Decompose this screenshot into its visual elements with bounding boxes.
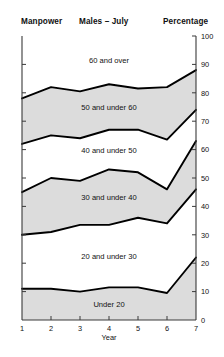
area-bands (22, 36, 196, 320)
right-tick-label: 90 (201, 60, 209, 69)
right-tick-label: 0 (201, 316, 205, 325)
right-tick-label: 80 (201, 89, 209, 98)
x-tick-label: 2 (49, 324, 53, 333)
band-label: 30 and under 40 (81, 193, 136, 202)
right-tick-label: 50 (201, 174, 209, 183)
band-label: 40 and under 50 (81, 146, 136, 155)
x-axis-title: Year (102, 333, 117, 342)
x-tick-label: 6 (165, 324, 169, 333)
x-tick-label: 5 (136, 324, 140, 333)
right-tick-label: 60 (201, 145, 209, 154)
x-tick-label: 1 (20, 324, 24, 333)
right-tick-label: 100 (201, 32, 213, 41)
stacked-area-plot: 0102030405060708090100 1234567 Under 202… (0, 0, 224, 357)
x-tick-label: 3 (78, 324, 82, 333)
right-tick-label: 30 (201, 231, 209, 240)
band-label: Under 20 (93, 300, 124, 309)
band-label: 50 and under 60 (81, 103, 136, 112)
right-tick-label: 40 (201, 202, 209, 211)
right-tick-label: 10 (201, 287, 209, 296)
chart-figure: Manpower Males – July Percentage 0102030… (0, 0, 224, 357)
x-tick-label: 7 (194, 324, 198, 333)
right-tick-label: 70 (201, 117, 209, 126)
band-label: 20 and under 30 (81, 252, 136, 261)
x-tick-label: 4 (107, 324, 111, 333)
right-tick-label: 20 (201, 259, 209, 268)
band-label: 60 and over (89, 56, 130, 65)
